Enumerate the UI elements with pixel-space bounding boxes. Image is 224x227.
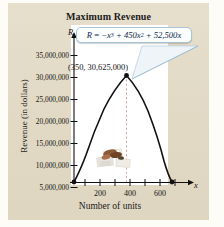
equation-lhs: R (87, 30, 92, 40)
right-zero-point (170, 180, 175, 185)
equation-term-1: −x (101, 30, 111, 40)
equation-term-2-exponent: 2 (141, 32, 144, 38)
figure-container: Maximum Revenue Revenue (in dollars) Num… (0, 0, 224, 227)
maximum-point (124, 73, 129, 78)
equation-term-3: + 52,500x (146, 30, 181, 40)
left-zero-point (72, 180, 77, 185)
equation-equals: = (94, 30, 99, 40)
equation-term-2: + 450x (116, 30, 141, 40)
money-photo (96, 144, 134, 171)
equation-callout: R = −x3 + 450x2 + 52,500x (76, 27, 192, 43)
x-axis-arrow (188, 180, 194, 186)
equation-term-1-exponent: 3 (111, 32, 114, 38)
